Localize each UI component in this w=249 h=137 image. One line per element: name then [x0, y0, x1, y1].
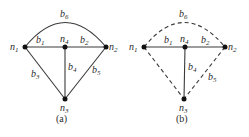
label-b1-a: b1: [36, 34, 45, 47]
label-n1-a: n1: [10, 41, 19, 54]
node-n2-b: [223, 45, 228, 50]
caption-a: (a): [56, 113, 67, 125]
node-n1-a: [23, 45, 28, 50]
caption-b: (b): [176, 113, 188, 125]
figure-a: n1 n4 n2 n3 b6 b1 b2 b3 b4 b5 (a): [10, 8, 118, 125]
label-n2-b: n2: [228, 41, 237, 54]
label-n4-b: n4: [180, 33, 189, 46]
label-b2-a: b2: [80, 34, 89, 47]
label-b5-a: b5: [92, 64, 101, 77]
label-n4-a: n4: [60, 33, 69, 46]
label-b4-a: b4: [68, 61, 77, 74]
edge-b4-b: [184, 47, 185, 99]
label-n1-b: n1: [129, 41, 138, 54]
label-b1-b: b1: [164, 34, 173, 47]
label-b5-b: b5: [208, 71, 217, 84]
label-n2-a: n2: [109, 41, 118, 54]
label-b4-b: b4: [188, 61, 197, 74]
graph-diagram: n1 n4 n2 n3 b6 b1 b2 b3 b4 b5 (a) n1 n4 …: [0, 0, 249, 137]
node-n1-b: [142, 45, 147, 50]
label-b3-a: b3: [31, 68, 40, 81]
figure-b: n1 n4 n2 n3 b6 b1 b2 b4 b5 (b): [129, 8, 237, 125]
label-b6-a: b6: [60, 8, 69, 21]
node-n3-b: [182, 97, 187, 102]
node-n2-a: [104, 45, 109, 50]
label-b2-b: b2: [201, 34, 210, 47]
node-n3-a: [63, 97, 68, 102]
edge-b5-b: [184, 47, 225, 99]
edge-b3-b: [144, 47, 184, 99]
label-b6-b: b6: [179, 8, 188, 21]
